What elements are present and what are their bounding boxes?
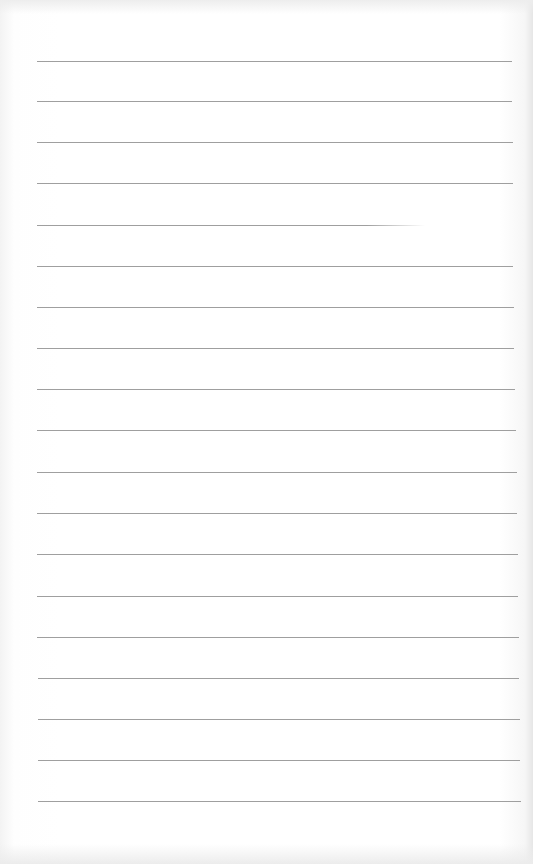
ruled-line xyxy=(38,760,520,761)
lined-paper-sheet xyxy=(0,0,533,864)
ruled-line xyxy=(38,719,520,720)
ruled-line xyxy=(38,801,521,802)
ruled-line xyxy=(37,183,513,184)
ruled-line xyxy=(38,678,519,679)
ruled-line xyxy=(37,307,514,308)
ruled-line xyxy=(37,596,518,597)
ruled-line xyxy=(37,61,512,62)
ruled-line xyxy=(37,554,518,555)
ruled-line xyxy=(37,513,517,514)
ruled-line xyxy=(37,266,513,267)
ruled-line xyxy=(37,389,515,390)
ruled-line xyxy=(37,430,516,431)
ruled-line xyxy=(37,225,425,226)
ruled-line xyxy=(37,101,512,102)
ruled-line xyxy=(37,142,513,143)
ruled-line xyxy=(37,472,517,473)
ruled-line xyxy=(37,637,519,638)
ruled-line xyxy=(37,348,514,349)
